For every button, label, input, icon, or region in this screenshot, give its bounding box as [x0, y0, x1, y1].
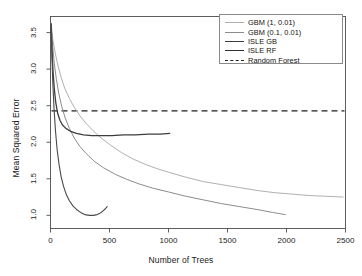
- x-tick-label: 2500: [326, 236, 362, 245]
- series-line-2: [51, 24, 170, 136]
- y-tick-label: 3.0: [28, 58, 37, 80]
- y-tick-label: 2.5: [28, 94, 37, 116]
- y-tick-label: 1.5: [28, 167, 37, 189]
- legend-line-swatch-icon: [224, 46, 245, 55]
- x-tick-label: 1000: [149, 236, 189, 245]
- y-tick-label: 2.0: [28, 131, 37, 153]
- y-axis-title: Mean Squared Error: [11, 0, 22, 276]
- legend-line-swatch-icon: [224, 18, 245, 27]
- x-tick-label: 500: [90, 236, 130, 245]
- legend-line-swatch-icon: [224, 56, 245, 65]
- legend-line-swatch-icon: [224, 37, 245, 46]
- x-tick-label: 1500: [208, 236, 248, 245]
- legend-item-label: ISLE GB: [245, 37, 277, 46]
- legend-item-label: GBM (1, 0.01): [245, 18, 295, 27]
- legend-item-2: ISLE GB: [224, 37, 338, 46]
- legend-item-1: GBM (0.1, 0.01): [224, 27, 338, 36]
- legend-item-label: GBM (0.1, 0.01): [245, 28, 301, 37]
- chart-legend: GBM (1, 0.01)GBM (0.1, 0.01)ISLE GBISLE …: [219, 14, 343, 64]
- x-axis-title: Number of Trees: [0, 255, 362, 265]
- legend-item-label: Random Forest: [245, 56, 300, 65]
- x-tick-label: 0: [31, 236, 71, 245]
- legend-item-0: GBM (1, 0.01): [224, 18, 338, 27]
- legend-item-3: ISLE RF: [224, 46, 338, 55]
- legend-item-label: ISLE RF: [245, 46, 276, 55]
- x-tick-label: 2000: [267, 236, 307, 245]
- y-tick-label: 3.5: [28, 21, 37, 43]
- y-tick-label: 1.0: [28, 204, 37, 226]
- legend-item-4: Random Forest: [224, 56, 338, 65]
- legend-line-swatch-icon: [224, 28, 245, 37]
- chart-root: Number of Trees Mean Squared Error 1.01.…: [0, 0, 362, 276]
